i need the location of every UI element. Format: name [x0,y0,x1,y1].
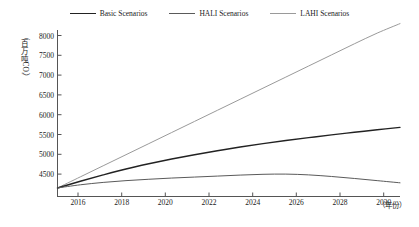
y-tick-marks [58,36,62,175]
chart-figure: Basic Scenarios HALI Scenarios LAHI Scen… [0,0,419,227]
series-line-lahi [58,24,401,188]
series-line-basic [58,127,401,188]
plot-area [0,0,419,227]
x-tick-marks [78,193,384,197]
series-line-hali [58,174,401,188]
